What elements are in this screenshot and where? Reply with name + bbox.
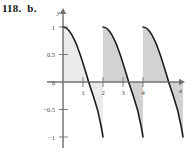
y-axis-label: y: [56, 9, 61, 17]
x-tick-label-3: 3: [121, 89, 124, 96]
y-tick-label-neg-1: −1: [48, 134, 55, 141]
shaded-region-2-above: [103, 27, 129, 82]
shaded-region-3-above: [143, 27, 169, 82]
x-tick-label-4: 4: [141, 89, 145, 96]
y-tick-label-neg-0-5: −0.5: [43, 106, 55, 113]
x-tick-label-1: 1: [81, 89, 84, 96]
y-axis-arrow-icon: [60, 8, 66, 14]
figure-container: 118. b. 1 2 3 4 1: [0, 0, 187, 153]
x-tick-label-2: 2: [101, 89, 104, 96]
y-tick-label-1: 1: [52, 24, 55, 31]
y-tick-label-0-5: 0.5: [47, 51, 55, 58]
graph-plot: 1 2 3 4 1 0.5 0 −0.5 −1 x y: [0, 0, 187, 153]
